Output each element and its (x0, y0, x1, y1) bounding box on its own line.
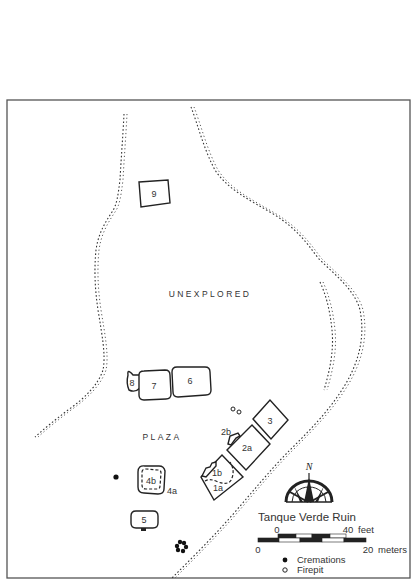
site-map: UNEXPLORED PLAZA 9 8 7 6 3 2a 2b (0, 0, 415, 586)
scale-bar: 0 40 feet 0 20 meters (255, 524, 407, 555)
room-1a: 1a 1b (201, 455, 243, 500)
svg-text:4a: 4a (167, 486, 177, 496)
map-frame (7, 100, 410, 578)
legend: Cremations Firepit (283, 554, 346, 575)
plaza-area-label: PLAZA (143, 432, 182, 442)
svg-text:meters: meters (378, 544, 407, 555)
svg-text:9: 9 (151, 189, 156, 199)
map-title: Tanque Verde Ruin (258, 511, 356, 523)
svg-text:3: 3 (267, 416, 272, 426)
north-label: N (305, 461, 314, 472)
svg-text:0: 0 (274, 524, 279, 535)
legend-item-firepit: Firepit (283, 564, 324, 575)
svg-text:2a: 2a (242, 443, 252, 453)
svg-text:5: 5 (141, 515, 146, 525)
room-9: 9 (139, 180, 170, 207)
svg-text:feet: feet (358, 524, 374, 535)
firepits (231, 407, 241, 414)
room-5: 5 (131, 511, 158, 531)
open-circle-icon (283, 568, 287, 572)
room-6: 6 (172, 367, 211, 397)
svg-text:6: 6 (187, 376, 192, 386)
svg-text:8: 8 (129, 378, 134, 388)
svg-text:2b: 2b (221, 427, 231, 437)
svg-text:4b: 4b (146, 476, 156, 486)
ridge-hachure-lines (35, 107, 365, 578)
svg-text:0: 0 (255, 544, 260, 555)
cremation-marker (113, 474, 118, 479)
svg-text:1a: 1a (213, 483, 223, 493)
svg-text:20: 20 (363, 544, 374, 555)
svg-text:Firepit: Firepit (297, 564, 324, 575)
compass-rose-icon: N (286, 461, 332, 502)
room-7: 7 (139, 370, 171, 400)
room-8: 8 (127, 372, 140, 392)
unexplored-area-label: UNEXPLORED (169, 289, 252, 299)
filled-circle-icon (283, 558, 288, 563)
svg-text:40: 40 (343, 524, 354, 535)
svg-text:1b: 1b (212, 468, 222, 478)
svg-text:7: 7 (151, 381, 156, 391)
cremation-cluster (175, 540, 188, 553)
